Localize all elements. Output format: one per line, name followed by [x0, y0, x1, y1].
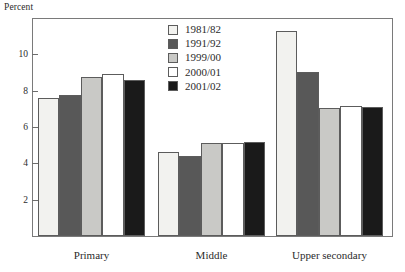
legend-swatch-icon: [168, 81, 178, 91]
bar: [340, 106, 361, 236]
legend-swatch-icon: [168, 39, 178, 49]
y-axis-tick-label: 8: [23, 86, 28, 96]
bar: [81, 77, 102, 236]
x-axis-category-label: Middle: [196, 249, 228, 261]
y-axis-tick-label: 10: [19, 49, 29, 59]
legend-swatch-icon: [168, 25, 178, 35]
bar: [38, 98, 59, 236]
bar-chart: Percent 246810 PrimaryMiddleUpper second…: [0, 0, 405, 272]
x-axis-category-label: Upper secondary: [292, 249, 367, 261]
legend-item: 2001/02: [168, 81, 221, 92]
legend-swatch-icon: [168, 67, 178, 77]
y-axis-tick-label: 6: [23, 122, 28, 132]
bar: [222, 143, 243, 236]
bar-group: [276, 19, 383, 236]
bar: [179, 156, 200, 236]
legend-item: 1981/82: [168, 24, 221, 35]
bar: [201, 143, 222, 236]
y-axis-tick-label: 4: [23, 158, 28, 168]
chart-legend: 1981/821991/921999/002000/012001/02: [168, 24, 221, 92]
legend-item-label: 2000/01: [185, 67, 221, 78]
y-axis-tick-label: 2: [23, 195, 28, 205]
bar: [297, 72, 318, 236]
legend-item: 2000/01: [168, 67, 221, 78]
bar: [102, 74, 123, 236]
bar: [362, 107, 383, 236]
x-axis-category-label: Primary: [74, 249, 109, 261]
legend-item-label: 2001/02: [185, 81, 221, 92]
legend-item-label: 1999/00: [185, 52, 221, 63]
legend-item-label: 1991/92: [185, 38, 221, 49]
bar-group: [38, 19, 145, 236]
legend-item: 1991/92: [168, 38, 221, 49]
legend-swatch-icon: [168, 53, 178, 63]
bar: [59, 95, 80, 236]
bar: [244, 142, 265, 236]
y-axis-title: Percent: [4, 2, 33, 12]
bar: [124, 80, 145, 236]
bar: [276, 31, 297, 236]
bar: [158, 152, 179, 236]
legend-item-label: 1981/82: [185, 24, 221, 35]
legend-item: 1999/00: [168, 52, 221, 63]
bar: [319, 108, 340, 236]
